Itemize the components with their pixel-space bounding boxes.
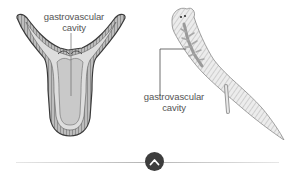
hydra-label-line1: gastrovascular xyxy=(24,11,124,22)
planarian-flatworm xyxy=(160,8,284,140)
planarian-label-line2: cavity xyxy=(122,102,226,113)
diagram-figure: gastrovascular cavity gastrovascular cav… xyxy=(0,0,295,140)
hydra-label-line2: cavity xyxy=(24,22,124,33)
planarian-cavity-label: gastrovascular cavity xyxy=(122,91,226,113)
collapse-button[interactable] xyxy=(145,152,164,171)
hydra-cavity-label: gastrovascular cavity xyxy=(24,11,124,33)
planarian-label-line1: gastrovascular xyxy=(122,91,226,102)
chevron-up-icon xyxy=(149,158,160,166)
